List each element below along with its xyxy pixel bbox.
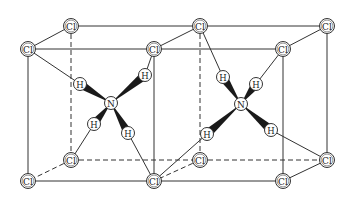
- atom-label: Cl: [66, 156, 76, 166]
- nh4cl-crystal-diagram: ClClClClClClClClClClClClHHHHHHHHNN: [0, 0, 352, 201]
- atom-label: Cl: [66, 22, 76, 32]
- atom-label: Cl: [23, 177, 33, 187]
- chlorine-atom: Cl: [147, 42, 162, 57]
- h-cl-link: [128, 133, 154, 181]
- chlorine-atom: Cl: [193, 19, 208, 34]
- atom-label: Cl: [278, 177, 288, 187]
- hydrogen-atom: H: [250, 78, 263, 91]
- nitrogen-atom: N: [235, 98, 248, 111]
- chlorine-atom: Cl: [193, 153, 208, 168]
- nitrogen-atom: N: [105, 97, 118, 110]
- hydrogen-atom: H: [88, 118, 101, 131]
- hydrogen-atom: H: [74, 78, 87, 91]
- atom-label: N: [107, 99, 115, 109]
- atom-label: H: [267, 126, 274, 136]
- atom-label: Cl: [149, 177, 159, 187]
- chlorine-atom: Cl: [21, 174, 36, 189]
- h-cl-link: [28, 49, 80, 84]
- atom-label: H: [90, 120, 97, 130]
- atom-label: H: [252, 80, 259, 90]
- hydrogen-atom: H: [265, 124, 278, 137]
- hydrogen-atom: H: [122, 127, 135, 140]
- hydrogen-atom: H: [201, 128, 214, 141]
- chlorine-atom: Cl: [64, 19, 79, 34]
- atoms: ClClClClClClClClClClClClHHHHHHHHNN: [21, 19, 335, 189]
- atom-label: N: [237, 100, 245, 110]
- atom-label: Cl: [23, 45, 33, 55]
- chlorine-atom: Cl: [21, 42, 36, 57]
- hydrogen-atom: H: [217, 71, 230, 84]
- atom-label: Cl: [195, 22, 205, 32]
- chlorine-atom: Cl: [320, 19, 335, 34]
- atom-label: Cl: [322, 22, 332, 32]
- atom-label: Cl: [322, 156, 332, 166]
- atom-label: Cl: [195, 156, 205, 166]
- atom-label: H: [141, 71, 148, 81]
- chlorine-atom: Cl: [320, 153, 335, 168]
- chlorine-atom: Cl: [276, 174, 291, 189]
- hydrogen-atom: H: [139, 69, 152, 82]
- atom-label: H: [219, 73, 226, 83]
- atom-label: H: [76, 80, 83, 90]
- atom-label: Cl: [278, 45, 288, 55]
- atom-label: H: [124, 129, 131, 139]
- chlorine-atom: Cl: [64, 153, 79, 168]
- h-cl-link: [200, 26, 223, 77]
- chlorine-atom: Cl: [147, 174, 162, 189]
- h-cl-link: [271, 130, 327, 160]
- atom-label: H: [203, 130, 210, 140]
- chlorine-atom: Cl: [276, 42, 291, 57]
- atom-label: Cl: [149, 45, 159, 55]
